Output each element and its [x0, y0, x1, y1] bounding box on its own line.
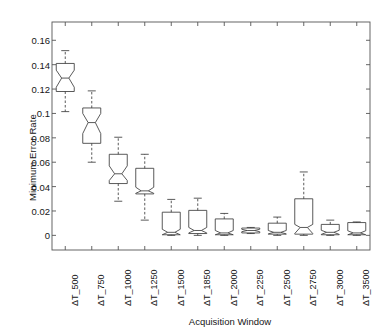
box-plot-ΔT_3500 [348, 222, 366, 235]
box-outline [295, 199, 313, 234]
plot-canvas [0, 0, 384, 334]
x-tick-label: ΔT_1000 [123, 269, 133, 306]
x-tick-label: ΔT_1500 [176, 269, 186, 306]
box-plot-ΔT_2250 [242, 227, 260, 233]
y-tick-label: 0.06 [32, 157, 51, 168]
box-outline [189, 210, 207, 233]
box-outline [162, 212, 180, 235]
box-plot-ΔT_2500 [268, 217, 286, 235]
box-plot-ΔT_500 [56, 51, 74, 112]
box-outline [56, 63, 74, 91]
plot-frame [52, 22, 370, 250]
box-plot-ΔT_2750 [295, 172, 313, 235]
box-plot-ΔT_1500 [162, 199, 180, 235]
box-outline [321, 224, 339, 234]
y-tick-label: 0.04 [32, 181, 51, 192]
y-tick-label: 0.14 [32, 59, 51, 70]
box-plot-ΔT_3000 [321, 220, 339, 235]
x-tick-label: ΔT_1850 [202, 269, 212, 306]
y-tick-label: 0.1 [37, 108, 50, 119]
x-tick-label: ΔT_750 [96, 274, 106, 306]
x-tick-label: ΔT_1250 [149, 269, 159, 306]
x-tick-label: ΔT_2250 [255, 269, 265, 306]
y-tick-label: 0.08 [32, 132, 51, 143]
x-tick-label: ΔT_2000 [229, 269, 239, 306]
box-plot-ΔT_750 [83, 91, 101, 162]
box-outline [109, 154, 127, 183]
x-axis-title-text: Acquisition Window [189, 316, 271, 327]
box-plot-figure: Minimum Error Rate 00.020.040.060.080.10… [0, 0, 384, 334]
box-plot-ΔT_1250 [136, 154, 154, 220]
x-tick-label: ΔT_3500 [361, 269, 371, 306]
y-axis-tick-labels: 00.020.040.060.080.10.120.140.16 [0, 0, 50, 334]
box-plot-ΔT_1850 [189, 198, 207, 235]
x-tick-label: ΔT_2750 [308, 269, 318, 306]
box-outline [215, 219, 233, 235]
box-outline [83, 108, 101, 143]
x-axis-title: Acquisition Window [0, 316, 384, 327]
x-tick-label: ΔT_500 [70, 274, 80, 306]
box-plot-ΔT_2000 [215, 213, 233, 235]
y-tick-label: 0.02 [32, 205, 51, 216]
box-plot-ΔT_1000 [109, 137, 127, 201]
x-tick-label: ΔT_3000 [335, 269, 345, 306]
y-tick-label: 0.12 [32, 84, 51, 95]
box-outline [136, 168, 154, 194]
x-tick-label: ΔT_2500 [282, 269, 292, 306]
y-tick-label: 0 [45, 230, 50, 241]
y-tick-label: 0.16 [32, 35, 51, 46]
